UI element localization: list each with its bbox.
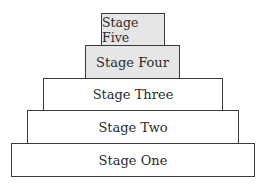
- stage-three-label: Stage Three: [93, 87, 174, 102]
- stage-two-label: Stage Two: [98, 120, 167, 135]
- stage-five-block: Stage Five: [101, 13, 165, 46]
- stage-one-block: Stage One: [11, 143, 255, 177]
- stage-four-block: Stage Four: [85, 45, 180, 79]
- stage-one-label: Stage One: [99, 153, 168, 168]
- stage-five-label: Stage Five: [102, 15, 164, 45]
- stage-four-label: Stage Four: [96, 55, 169, 70]
- stage-three-block: Stage Three: [43, 78, 223, 111]
- stage-two-block: Stage Two: [27, 110, 239, 144]
